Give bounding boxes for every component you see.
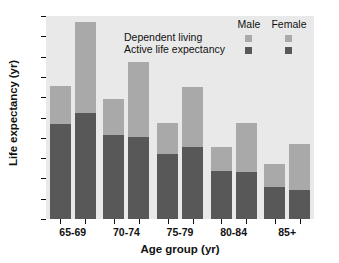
x-axis-tick-label: 85+ xyxy=(257,226,317,238)
square-swatch-icon xyxy=(245,35,252,42)
chart-legend: Male Female Dependent living Active life… xyxy=(124,18,309,55)
bar-female-85+ xyxy=(289,144,310,219)
bar-male-75-79 xyxy=(157,123,178,219)
x-axis-tick-label: 65-69 xyxy=(43,226,103,238)
bar-female-75-79 xyxy=(182,87,203,219)
bar-male-65-69 xyxy=(50,86,71,219)
bar-segment-active-life-expectancy xyxy=(236,172,257,219)
bar-segment-active-life-expectancy xyxy=(157,154,178,219)
x-axis-tick-mark xyxy=(221,219,222,224)
legend-swatch-female-active xyxy=(269,43,309,55)
bar-female-80-84 xyxy=(236,123,257,219)
square-swatch-icon xyxy=(245,47,252,54)
x-axis-tick-label: 70-74 xyxy=(96,226,156,238)
legend-swatch-male-dependent xyxy=(229,31,269,43)
square-swatch-icon xyxy=(285,35,292,42)
x-axis-tick-mark xyxy=(60,219,61,224)
bar-segment-dependent-living xyxy=(128,62,149,138)
bar-segment-dependent-living xyxy=(264,164,285,186)
y-axis-title: Life expectancy (yr) xyxy=(7,38,19,188)
x-axis-tick-label: 75-79 xyxy=(150,226,210,238)
bar-female-65-69 xyxy=(75,22,96,219)
x-axis-tick-mark xyxy=(85,219,86,224)
legend-label-dependent-living: Dependent living xyxy=(124,31,229,43)
bar-segment-active-life-expectancy xyxy=(289,190,310,219)
x-axis-tick-label: 80-84 xyxy=(204,226,264,238)
bar-segment-dependent-living xyxy=(103,99,124,136)
x-axis-tick-mark xyxy=(300,219,301,224)
chart-figure: Life expectancy (yr) 02468101214161820 6… xyxy=(0,0,339,263)
legend-header-female: Female xyxy=(269,18,309,31)
bar-segment-active-life-expectancy xyxy=(182,147,203,219)
x-axis-tick-mark xyxy=(114,219,115,224)
bar-segment-active-life-expectancy xyxy=(50,124,71,219)
y-axis-tick-mark xyxy=(41,219,46,220)
bar-segment-dependent-living xyxy=(211,147,232,171)
x-axis-tick-mark xyxy=(168,219,169,224)
bar-male-70-74 xyxy=(103,99,124,219)
bar-segment-dependent-living xyxy=(50,86,71,124)
legend-label-active-life-expectancy: Active life expectancy xyxy=(124,43,229,55)
legend-swatch-male-active xyxy=(229,43,269,55)
bar-segment-active-life-expectancy xyxy=(128,137,149,219)
legend-header-male: Male xyxy=(229,18,269,31)
bar-segment-active-life-expectancy xyxy=(103,135,124,219)
bar-segment-active-life-expectancy xyxy=(264,187,285,219)
bar-segment-dependent-living xyxy=(75,22,96,113)
square-swatch-icon xyxy=(285,47,292,54)
bar-male-85+ xyxy=(264,164,285,219)
bar-segment-active-life-expectancy xyxy=(75,113,96,219)
bar-segment-active-life-expectancy xyxy=(211,171,232,219)
bar-segment-dependent-living xyxy=(182,87,203,148)
x-axis-tick-mark xyxy=(139,219,140,224)
x-axis-tick-mark xyxy=(275,219,276,224)
bar-segment-dependent-living xyxy=(157,123,178,153)
bar-female-70-74 xyxy=(128,62,149,219)
legend-swatch-female-dependent xyxy=(269,31,309,43)
legend-corner-spacer xyxy=(124,18,229,31)
x-axis-title: Age group (yr) xyxy=(46,243,314,255)
bar-segment-dependent-living xyxy=(289,144,310,189)
x-axis-tick-mark xyxy=(193,219,194,224)
bar-segment-dependent-living xyxy=(236,123,257,172)
bar-male-80-84 xyxy=(211,147,232,219)
x-axis-tick-mark xyxy=(246,219,247,224)
